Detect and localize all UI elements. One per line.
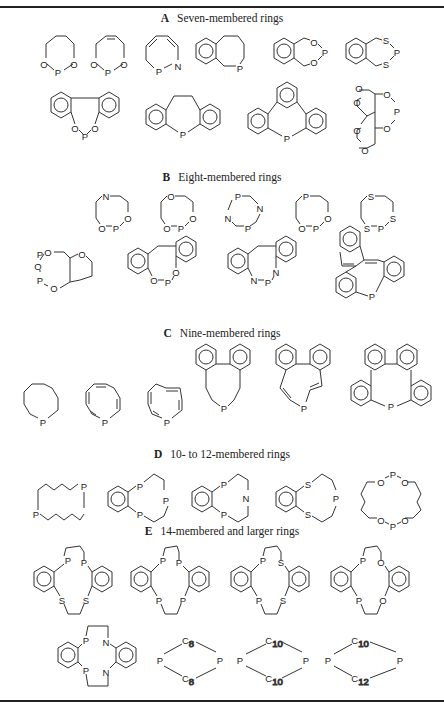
structure-b7: OPO [122, 232, 212, 302]
svg-text:P: P [156, 595, 162, 606]
svg-text:P: P [160, 555, 166, 566]
svg-text:P: P [40, 417, 46, 428]
svg-text:C10: C10 [351, 635, 368, 649]
svg-text:O: O [44, 247, 51, 258]
svg-text:N: N [257, 203, 264, 214]
svg-text:S: S [305, 509, 311, 520]
svg-text:S: S [305, 479, 311, 490]
svg-text:N: N [175, 61, 182, 72]
svg-text:O: O [377, 515, 384, 526]
svg-text:P: P [33, 509, 39, 520]
structure-c6: P [345, 340, 444, 436]
svg-text:N: N [273, 267, 280, 278]
svg-text:O: O [353, 125, 360, 136]
structure-e2: PPPP [125, 542, 219, 624]
structure-a7: OPO [45, 84, 125, 154]
section-letter: E [145, 525, 153, 537]
section-title: 14-membered and larger rings [160, 525, 299, 537]
svg-text:O: O [78, 249, 85, 260]
svg-text:N: N [251, 275, 258, 286]
structure-b2: OOOP [155, 190, 201, 236]
svg-text:P: P [180, 129, 186, 140]
structure-c1: P [18, 380, 68, 432]
svg-text:N: N [103, 191, 110, 202]
svg-text:O: O [172, 267, 179, 278]
svg-text:P: P [102, 417, 108, 428]
svg-text:P: P [260, 555, 266, 566]
svg-text:S: S [59, 595, 65, 606]
svg-text:P: P [164, 417, 170, 428]
svg-text:P: P [322, 47, 328, 58]
svg-text:P: P [237, 63, 243, 74]
structure-c5: P [270, 340, 342, 430]
svg-text:P: P [176, 557, 182, 568]
section-letter: A [161, 12, 169, 24]
svg-text:O: O [355, 83, 362, 94]
svg-text:P: P [83, 635, 89, 646]
svg-text:O: O [189, 213, 196, 224]
svg-text:P: P [65, 555, 71, 566]
section-c-heading: CNine-membered rings [0, 327, 444, 339]
svg-text:N: N [103, 637, 110, 648]
structure-e6: PP C8 C8 [152, 630, 232, 690]
structure-a8: P [140, 84, 230, 146]
svg-text:C8: C8 [182, 635, 194, 649]
svg-text:P: P [163, 495, 169, 506]
svg-text:P: P [105, 67, 111, 78]
svg-text:P: P [256, 595, 262, 606]
structure-e3: PSPS [225, 542, 319, 624]
structure-d4: SPS [270, 470, 348, 528]
svg-text:P: P [37, 275, 43, 286]
svg-text:S: S [383, 59, 389, 70]
structure-c4: P [190, 340, 262, 430]
svg-text:P: P [369, 291, 375, 302]
structure-e4: POPO [325, 542, 419, 624]
svg-text:P: P [221, 479, 227, 490]
svg-text:P: P [390, 469, 396, 480]
svg-text:P: P [397, 655, 403, 666]
svg-text:P: P [81, 557, 87, 568]
svg-text:N: N [225, 213, 232, 224]
structure-b3: PNNP [220, 190, 270, 236]
structure-d3: PNP [186, 470, 264, 528]
svg-text:S: S [280, 595, 286, 606]
structure-b1: NOOP [90, 190, 136, 236]
structure-a5: OPO [268, 30, 332, 78]
svg-text:P: P [156, 66, 162, 77]
structure-d1: PP [28, 480, 94, 524]
svg-text:O: O [50, 283, 57, 294]
svg-text:P: P [82, 131, 88, 142]
svg-text:P: P [235, 191, 241, 202]
svg-text:P: P [325, 655, 331, 666]
svg-text:P: P [313, 223, 319, 234]
svg-text:S: S [278, 557, 284, 568]
structure-a6: SPS [340, 30, 404, 78]
svg-text:P: P [303, 655, 309, 666]
section-letter: B [163, 171, 171, 183]
svg-text:P: P [137, 509, 143, 520]
svg-text:O: O [310, 37, 317, 48]
svg-text:P: P [165, 277, 171, 288]
svg-text:O: O [120, 59, 127, 70]
svg-text:C8: C8 [182, 673, 194, 687]
section-letter: C [164, 327, 172, 339]
svg-text:O: O [401, 477, 408, 488]
structure-a9: P [242, 82, 332, 152]
section-b-heading: BEight-membered rings [0, 171, 444, 183]
svg-text:O: O [167, 191, 174, 202]
structure-a10: OOOP OOO [345, 84, 409, 156]
svg-text:P: P [157, 655, 163, 666]
svg-text:O: O [401, 515, 408, 526]
svg-text:O: O [353, 97, 360, 108]
svg-text:P: P [265, 277, 271, 288]
structure-a1: OPO [38, 30, 78, 78]
svg-text:O: O [379, 595, 386, 606]
svg-text:O: O [70, 59, 77, 70]
svg-text:O: O [383, 123, 390, 134]
svg-text:C10: C10 [265, 673, 282, 687]
svg-text:P: P [81, 481, 87, 492]
svg-text:O: O [383, 89, 390, 100]
svg-text:P: P [221, 509, 227, 520]
svg-text:O: O [310, 57, 317, 68]
svg-text:P: P [113, 223, 119, 234]
